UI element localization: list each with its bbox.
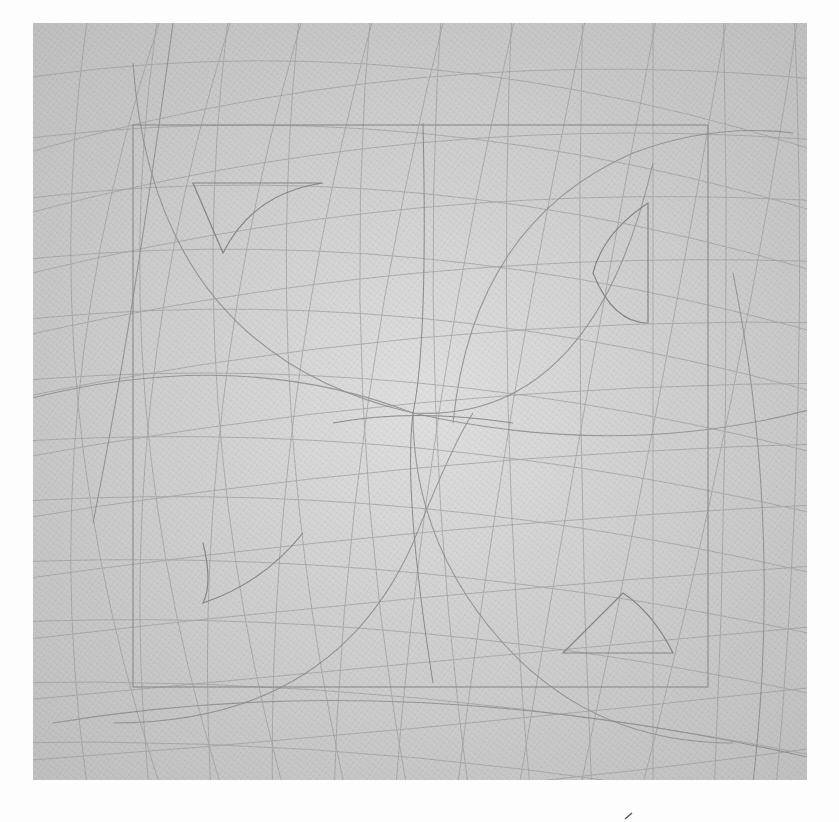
pencil-mark-icon <box>624 812 634 820</box>
geometric-drawing <box>33 23 807 780</box>
drawing-paper <box>33 23 807 780</box>
artwork-canvas: ´ <box>0 0 839 822</box>
